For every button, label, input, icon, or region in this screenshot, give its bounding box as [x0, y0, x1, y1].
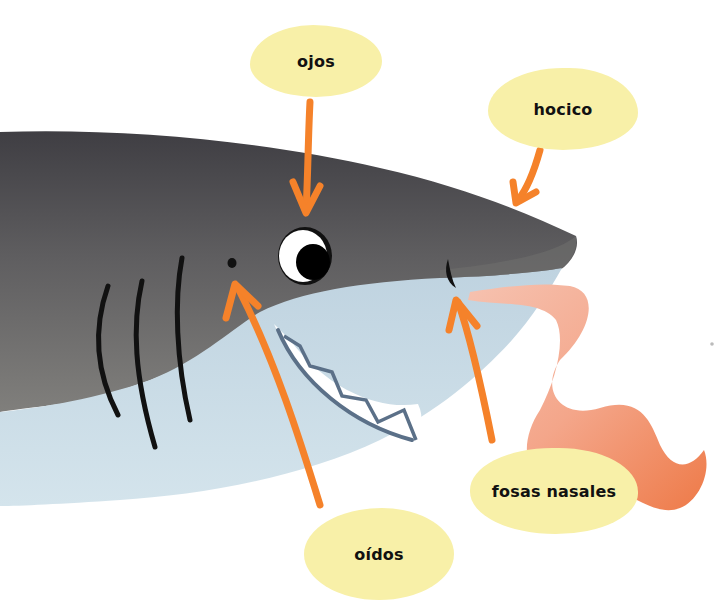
ear-dot: [228, 258, 237, 268]
label-snout: hocico: [488, 68, 638, 150]
arrow-hocico: [513, 150, 540, 203]
label-ears: oídos: [304, 508, 454, 600]
eye-icon: [278, 227, 332, 285]
label-eyes-text: ojos: [297, 52, 335, 71]
label-nostrils: fosas nasales: [470, 448, 638, 534]
label-ears-text: oídos: [354, 545, 403, 564]
shark-diagram: ojos hocico fosas nasales oídos: [0, 0, 715, 613]
label-nostrils-text: fosas nasales: [492, 482, 616, 501]
label-eyes: ojos: [250, 25, 382, 97]
label-snout-text: hocico: [533, 100, 592, 119]
